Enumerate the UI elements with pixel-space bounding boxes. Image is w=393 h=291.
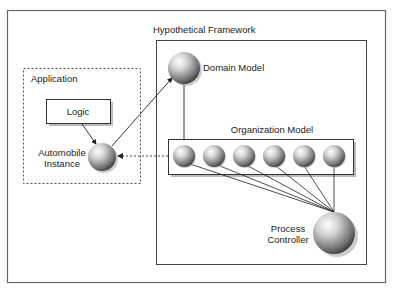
domain-model-label: Domain Model — [203, 62, 264, 73]
logic-label: Logic — [67, 106, 90, 117]
process-controller-sphere — [313, 212, 355, 254]
automobile-label: Automobile — [38, 147, 86, 158]
org-member-sphere — [263, 145, 285, 167]
automobile-instance-sphere — [88, 143, 116, 171]
automobile-label-2: Instance — [44, 158, 80, 169]
org-member-sphere — [233, 145, 255, 167]
org-member-sphere — [173, 145, 195, 167]
framework-title: Hypothetical Framework — [153, 24, 256, 35]
process-controller-label: Process — [271, 223, 306, 234]
application-title: Application — [31, 73, 77, 84]
org-member-sphere — [323, 145, 345, 167]
org-member-sphere — [293, 145, 315, 167]
org-member-sphere — [203, 145, 225, 167]
process-controller-label-2: Controller — [267, 234, 308, 245]
domain-model-sphere — [168, 52, 200, 84]
organization-model-label: Organization Model — [231, 124, 313, 135]
architecture-diagram: Hypothetical Framework Application Logic… — [0, 0, 393, 291]
